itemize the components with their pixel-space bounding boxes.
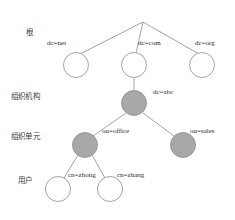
node-label-dc-net: dc=net	[47, 40, 66, 47]
tree-node-cn-zhang[interactable]	[98, 177, 123, 202]
node-label-cn-zhong: cn=zhong	[68, 172, 96, 179]
tree-edge	[143, 22, 199, 54]
tree-node-ou-sales[interactable]	[171, 133, 196, 158]
node-label-dc-com: dc=com	[138, 40, 161, 47]
tree-node-dc-org[interactable]	[190, 53, 215, 78]
node-label-ou-sales: ou=sales	[190, 128, 215, 135]
node-label-ou-office: ou=office	[102, 128, 129, 135]
tree-node-ou-office[interactable]	[73, 133, 98, 158]
node-label-dc-abc: dc=abc	[153, 89, 173, 96]
tree-edge	[80, 22, 143, 54]
tree-node-cn-zhong[interactable]	[46, 177, 71, 202]
tree-node-dc-com[interactable]	[122, 53, 147, 78]
diagram-canvas	[0, 0, 235, 220]
tier-label-user: 用户	[18, 177, 32, 185]
node-label-cn-zhang: cn=zhang	[117, 172, 144, 179]
tier-label-organization: 组织机构	[11, 93, 40, 101]
tree-node-dc-net[interactable]	[64, 53, 89, 78]
ldap-tree-diagram: 根组织机构组织单元用户 dc=netdc=comdc=orgdc=abcou=o…	[0, 0, 235, 220]
tree-node-dc-abc[interactable]	[122, 91, 147, 116]
tree-edge	[143, 113, 174, 136]
tree-edge	[136, 22, 143, 53]
tier-label-root: 根	[26, 29, 33, 37]
node-label-dc-org: dc=org	[195, 40, 215, 47]
tier-label-org-unit: 组织单元	[11, 133, 40, 141]
